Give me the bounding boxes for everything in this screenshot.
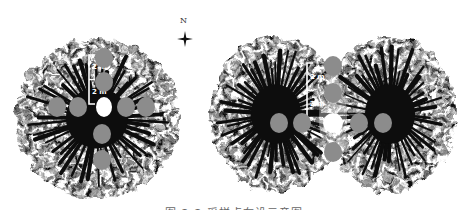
scale-label: 2 m — [310, 73, 325, 81]
sample-point-marker — [324, 83, 342, 103]
sample-point-marker — [324, 142, 342, 162]
gap-center-marker — [323, 113, 343, 133]
sample-point-marker — [137, 97, 155, 117]
sample-point-marker — [293, 113, 311, 133]
trunk-marker — [96, 97, 112, 117]
sampling-layout-figure: 2 m2 m 2 m2 m — [0, 0, 468, 210]
sample-point-marker — [374, 113, 392, 133]
sample-point-marker — [93, 150, 111, 170]
sample-point-marker — [48, 97, 66, 117]
sample-point-marker — [350, 113, 368, 133]
north-label: N — [180, 16, 187, 25]
sample-point-marker — [117, 97, 135, 117]
sample-point-marker — [95, 72, 113, 92]
sample-point-marker — [324, 56, 342, 76]
figure-caption: 图 2-2 采样点布设示意图 — [0, 204, 468, 210]
sample-point-marker — [95, 48, 113, 68]
north-arrow-icon — [177, 31, 193, 47]
scale-label: 2 m — [310, 100, 325, 108]
sample-point-marker — [69, 97, 87, 117]
sample-point-marker — [93, 124, 111, 144]
sample-point-marker — [270, 113, 288, 133]
